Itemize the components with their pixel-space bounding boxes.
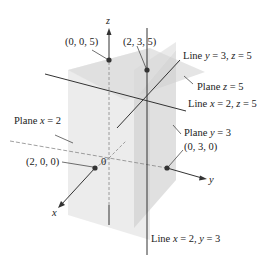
point-label-2-3-5: (2, 3, 5) <box>123 36 156 48</box>
point-label-0-3-0: (0, 3, 0) <box>184 141 217 153</box>
point-2-3-5 <box>144 67 149 72</box>
label-line-x2-y3: Line x = 2, y = 3 <box>151 233 220 245</box>
origin-label: 0 <box>101 156 106 168</box>
y-axis-arrowhead <box>199 176 207 181</box>
z-axis-label: z <box>106 15 110 27</box>
leader-0-0-5 <box>92 50 107 59</box>
label-line-x2-z5: Line x = 2, z = 5 <box>188 98 257 110</box>
point-0-3-0 <box>164 165 169 170</box>
point-label-2-0-0: (2, 0, 0) <box>26 156 59 168</box>
point-2-0-0 <box>92 165 97 170</box>
point-label-0-0-5: (0, 0, 5) <box>65 36 98 48</box>
label-line-y3-z5: Line y = 3, z = 5 <box>183 50 252 62</box>
x-axis-label: x <box>52 207 57 219</box>
point-0-0-5 <box>106 57 111 62</box>
label-plane-x2: Plane x = 2 <box>14 115 61 127</box>
y-axis-label: y <box>209 174 214 186</box>
label-plane-y3: Plane y = 3 <box>184 127 231 139</box>
label-plane-z5: Plane z = 5 <box>197 81 243 93</box>
z-axis-arrowhead <box>107 28 112 35</box>
